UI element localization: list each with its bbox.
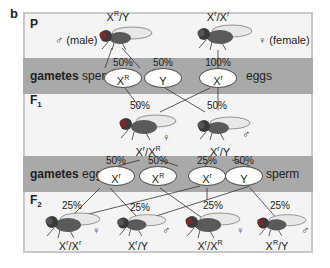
f2-genotype: Xr/Y <box>128 239 148 252</box>
generation-label-f2: F2 <box>30 193 42 209</box>
gamete-egg-xr: Xr <box>199 68 237 88</box>
fly-icon <box>252 210 308 236</box>
parent-gametes-label: gametes sperm <box>30 69 115 83</box>
eggs-label: eggs <box>246 69 272 83</box>
generation-label-f1: F1 <box>30 93 42 109</box>
f1-male-sex-symbol: ♂ <box>242 128 250 140</box>
gamete-percentage: 25% <box>197 155 217 166</box>
gamete-sperm-xr: Xr <box>188 166 226 186</box>
f1-female-sex-symbol: ♀ <box>162 131 170 143</box>
gamete-percentage: 50% <box>234 155 254 166</box>
f2-sex-symbol: ♀ <box>92 224 100 236</box>
gamete-percentage: 100% <box>205 57 231 68</box>
gamete-sperm-xR: XR <box>104 68 142 88</box>
fly-icon <box>178 208 242 238</box>
f2-sex-symbol: ♂ <box>162 224 170 236</box>
parent-male-sex-label: ♂ (male) <box>55 34 97 46</box>
gamete-egg-xr: Xr <box>97 166 135 186</box>
fly-icon <box>190 20 254 50</box>
gamete-sperm-y: Y <box>144 68 182 88</box>
f2-genotype: Xr/XR <box>197 239 222 252</box>
gamete-percentage: 50% <box>153 57 173 68</box>
f2-sex-symbol: ♀ <box>236 224 244 236</box>
sperm-label: sperm <box>266 167 299 181</box>
gamete-percentage: 50% <box>148 155 168 166</box>
parent-male-genotype: XR/Y <box>107 10 130 23</box>
generation-label-p: P <box>30 17 38 31</box>
f2-sex-symbol: ♂ <box>301 224 309 236</box>
gamete-egg-xR: XR <box>139 166 177 186</box>
gamete-percentage: 50% <box>113 57 133 68</box>
f1-male-percentage: 50% <box>207 100 227 111</box>
f2-genotype: Xr/Xr <box>59 239 81 252</box>
parent-female-sex-label: ♀ (female) <box>258 34 310 46</box>
gamete-sperm-y: Y <box>225 166 263 186</box>
fly-icon <box>112 210 168 236</box>
parent-female-genotype: Xr/Xr <box>207 10 229 23</box>
fly-icon <box>94 22 154 50</box>
gamete-percentage: 50% <box>106 155 126 166</box>
f2-genotype: XR/Y <box>266 239 289 252</box>
